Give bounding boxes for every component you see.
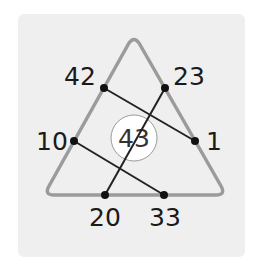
dot-1 <box>191 137 199 145</box>
label-20: 20 <box>89 203 121 232</box>
label-1: 1 <box>206 127 222 156</box>
center-value: 43 <box>118 124 150 153</box>
label-10: 10 <box>36 127 68 156</box>
label-33: 33 <box>149 203 181 232</box>
label-23: 23 <box>173 62 205 91</box>
triangle-diagram: 43 42 23 10 1 20 33 <box>0 0 261 276</box>
dot-42 <box>100 84 108 92</box>
label-42: 42 <box>64 62 96 91</box>
dot-20 <box>101 191 109 199</box>
dot-33 <box>160 191 168 199</box>
dot-10 <box>70 137 78 145</box>
dot-23 <box>161 84 169 92</box>
